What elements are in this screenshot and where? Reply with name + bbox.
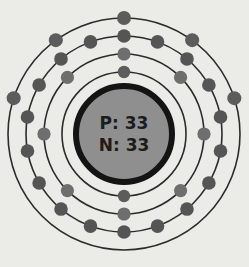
atom-canvas: P: 33 N: 33 (0, 0, 249, 267)
shell-3-electron (32, 176, 46, 190)
shell-2-electron (174, 71, 187, 84)
shell-2-electron (61, 71, 74, 84)
shell-3-electron (21, 144, 35, 158)
shell-1-electron (118, 66, 130, 78)
shell-3-electron (117, 29, 131, 43)
shell-3-electron (214, 144, 228, 158)
shell-2-electron (174, 184, 187, 197)
shell-3-electron (202, 78, 216, 92)
bohr-model-diagram: P: 33 N: 33 (0, 0, 249, 267)
shell-3-electron (180, 52, 194, 66)
shell-3-electron (21, 110, 35, 124)
shell-3-electron (84, 219, 98, 233)
shell-4-electron (185, 33, 199, 47)
shell-2-electron (37, 127, 50, 140)
shell-1-electron (118, 190, 130, 202)
shell-2-electron (117, 47, 130, 60)
shell-3-electron (151, 219, 165, 233)
shell-3-electron (117, 225, 131, 239)
nucleus-neutron-label: N: 33 (99, 135, 150, 155)
shell-3-electron (32, 78, 46, 92)
shell-4-electron (49, 33, 63, 47)
shell-2-electron (117, 207, 130, 220)
nucleus-proton-label: P: 33 (100, 113, 149, 133)
shell-4-electron (7, 91, 21, 105)
shell-3-electron (214, 110, 228, 124)
shell-2-electron (197, 127, 210, 140)
shell-3-electron (202, 176, 216, 190)
nucleus-circle (76, 86, 172, 182)
shell-3-electron (84, 35, 98, 49)
shell-2-electron (61, 184, 74, 197)
shell-3-electron (180, 202, 194, 216)
shell-4-electron (117, 11, 131, 25)
shell-3-electron (151, 35, 165, 49)
nucleus-group: P: 33 N: 33 (76, 86, 172, 182)
shell-3-electron (54, 52, 68, 66)
shell-3-electron (54, 202, 68, 216)
shell-4-electron (227, 91, 241, 105)
